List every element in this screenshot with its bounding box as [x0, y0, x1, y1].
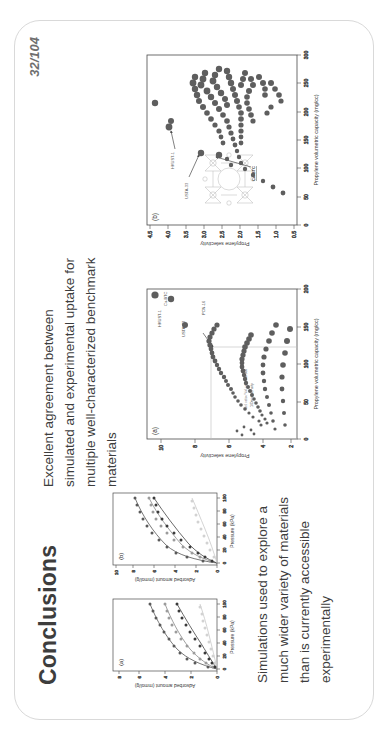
svg-text:1.0: 1.0 — [273, 230, 279, 237]
svg-text:100: 100 — [303, 359, 309, 368]
svg-text:USTA-33: USTA-33 — [184, 182, 189, 199]
svg-text:(b): (b) — [151, 213, 159, 221]
presentation-slide: Conclusions 32/104 Excellent agreement b… — [14, 20, 374, 720]
svg-text:4: 4 — [163, 675, 168, 678]
svg-text:200: 200 — [303, 284, 309, 293]
isotherm-panel-a: 0 2 4 6 8 0 20 40 60 80 100 Pressure (kP… — [113, 599, 235, 689]
svg-text:4: 4 — [173, 569, 178, 572]
mof-structure-schematic — [203, 152, 255, 204]
svg-text:0: 0 — [215, 569, 220, 572]
page-number: 32/104 — [27, 37, 42, 77]
page-title: Conclusions — [35, 544, 62, 684]
svg-text:6: 6 — [226, 444, 232, 447]
svg-text:4.5: 4.5 — [147, 230, 153, 237]
svg-text:HKUST-1: HKUST-1 — [170, 151, 175, 169]
selectivity-panel-a: 10 8 6 4 2 0 50 100 150 200 Propylene vo… — [147, 284, 319, 458]
svg-text:150: 150 — [303, 135, 309, 144]
svg-text:Adsorbed amount (mmol/g): Adsorbed amount (mmol/g) — [134, 577, 195, 583]
svg-text:80: 80 — [222, 508, 227, 513]
figure-selectivity-scatter: 10 8 6 4 2 0 50 100 150 200 Propylene vo… — [133, 39, 351, 473]
svg-text:100: 100 — [222, 493, 227, 501]
isotherm-chart: 0 2 4 6 8 0 20 40 60 80 100 Pressure (kP… — [101, 483, 253, 699]
svg-text:60: 60 — [222, 521, 227, 526]
svg-text:2: 2 — [288, 444, 294, 447]
svg-text:0: 0 — [303, 223, 309, 226]
svg-text:3.5: 3.5 — [183, 230, 189, 237]
svg-text:50: 50 — [303, 399, 309, 405]
svg-text:60: 60 — [222, 627, 227, 632]
svg-text:PCN-16: PCN-16 — [201, 299, 206, 314]
svg-text:6: 6 — [152, 569, 157, 572]
svg-text:8: 8 — [131, 569, 136, 572]
svg-text:100: 100 — [303, 163, 309, 172]
svg-text:HKUST-1: HKUST-1 — [157, 309, 162, 327]
svg-text:20: 20 — [222, 547, 227, 552]
svg-text:250: 250 — [303, 78, 309, 87]
svg-text:10: 10 — [158, 444, 164, 450]
svg-text:Pressure (kPa): Pressure (kPa) — [229, 513, 235, 547]
svg-text:1.5: 1.5 — [255, 230, 261, 237]
svg-text:(a): (a) — [118, 658, 124, 665]
svg-text:Pressure (kPa): Pressure (kPa) — [229, 619, 235, 653]
selectivity-panel-b: 4.5 4.0 3.5 3.0 2.5 2.0 1.5 1.0 0.5 0 50… — [147, 50, 319, 246]
svg-text:Propylene volumetric capacity: Propylene volumetric capacity (mg/cc) — [313, 94, 319, 185]
svg-text:Propylene selectivity: Propylene selectivity — [200, 241, 249, 247]
svg-text:Cu-BTC: Cu-BTC — [163, 291, 168, 306]
svg-text:20: 20 — [222, 653, 227, 658]
svg-text:40: 40 — [222, 534, 227, 539]
svg-text:4.0: 4.0 — [165, 230, 171, 237]
svg-text:4: 4 — [260, 444, 266, 447]
svg-text:200: 200 — [303, 107, 309, 116]
bullet-text-bottom: Simulations used to explore a much wider… — [253, 478, 337, 683]
svg-text:Adsorbed amount (mmol/g): Adsorbed amount (mmol/g) — [134, 683, 195, 689]
svg-text:2.0: 2.0 — [237, 230, 243, 237]
svg-text:3.0: 3.0 — [201, 230, 207, 237]
svg-text:150: 150 — [303, 322, 309, 331]
svg-text:0: 0 — [222, 667, 227, 670]
svg-text:40: 40 — [222, 640, 227, 645]
svg-text:6: 6 — [137, 675, 142, 678]
svg-text:80: 80 — [222, 614, 227, 619]
figure-isotherms: 0 2 4 6 8 0 20 40 60 80 100 Pressure (kP… — [101, 483, 253, 699]
svg-text:50: 50 — [303, 194, 309, 200]
svg-text:300: 300 — [303, 50, 309, 59]
svg-text:10: 10 — [114, 569, 119, 574]
svg-text:0: 0 — [303, 437, 309, 440]
selectivity-chart: 10 8 6 4 2 0 50 100 150 200 Propylene vo… — [133, 39, 351, 473]
svg-text:(a): (a) — [151, 427, 159, 435]
svg-text:0: 0 — [222, 561, 227, 564]
svg-text:Propylene selectivity: Propylene selectivity — [200, 453, 249, 459]
svg-text:2: 2 — [194, 569, 199, 572]
svg-text:100: 100 — [222, 599, 227, 607]
svg-text:0: 0 — [215, 675, 220, 678]
isotherm-panel-b: 0 2 4 6 8 10 0 20 40 60 80 100 Pressure … — [113, 493, 235, 583]
svg-text:2: 2 — [189, 675, 194, 678]
svg-text:(b): (b) — [118, 552, 124, 559]
bullet-text-top: Excellent agreement between simulated an… — [39, 255, 123, 487]
svg-text:0.5: 0.5 — [291, 230, 297, 237]
svg-text:8: 8 — [192, 444, 198, 447]
slide-stage: Conclusions 32/104 Excellent agreement b… — [14, 20, 374, 720]
svg-text:2.5: 2.5 — [219, 230, 225, 237]
svg-text:8: 8 — [117, 675, 122, 678]
svg-text:Propylene volumetric capacity: Propylene volumetric capacity (mg/cc) — [313, 318, 319, 409]
